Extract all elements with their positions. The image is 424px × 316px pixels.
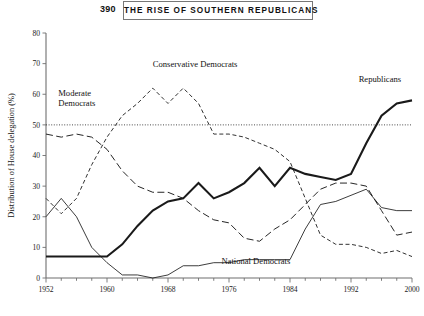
y-tick-label: 40 [32,151,40,160]
series-line-moderate-democrats [46,134,412,241]
republicans-label: Republicans [359,74,402,84]
national-democrats-label: National Democrats [221,256,291,266]
series-line-republicans [46,100,412,256]
y-tick-label: 10 [32,243,40,252]
axis-titles: Distribution of House delegation (%) [7,93,16,218]
chart-annotations: ModerateDemocratsConservative DemocratsR… [58,59,402,266]
y-tick-label: 50 [32,121,40,130]
x-tick-label: 1968 [160,285,175,294]
y-tick-label: 70 [32,59,40,68]
x-tick-label: 1984 [282,285,297,294]
y-tick-label: 20 [32,213,40,222]
series-line-conservative-democrats [46,88,412,256]
x-tick-label: 1960 [99,285,114,294]
running-title: THE RISE OF SOUTHERN REPUBLICANS [124,6,312,15]
running-title-box: THE RISE OF SOUTHERN REPUBLICANS [123,1,313,20]
y-axis-title: Distribution of House delegation (%) [7,93,16,218]
moderate-democrats-label: ModerateDemocrats [58,88,96,109]
y-tick-label: 60 [32,90,40,99]
x-axis: 1952196019681976198419922000 [38,278,419,294]
x-tick-label: 2000 [404,285,419,294]
page-folio: 390 [100,4,116,14]
x-tick-label: 1952 [38,285,53,294]
chart-canvas: 01020304050607080 1952196019681976198419… [0,24,424,316]
y-tick-label: 0 [36,274,40,283]
running-head: 390 THE RISE OF SOUTHERN REPUBLICANS [0,0,424,26]
conservative-democrats-label: Conservative Democrats [153,59,238,69]
data-series [46,88,412,278]
y-axis: 01020304050607080 [32,29,46,283]
line-chart-figure: 01020304050607080 1952196019681976198419… [0,24,424,316]
x-tick-label: 1992 [343,285,358,294]
x-tick-label: 1976 [221,285,236,294]
y-tick-label: 30 [32,182,40,191]
y-tick-label: 80 [32,29,40,38]
